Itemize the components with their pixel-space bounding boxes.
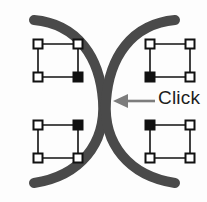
handle-top-left-hollow[interactable] <box>146 40 155 49</box>
handle-top-right-filled[interactable] <box>74 121 83 130</box>
click-annotation-label: Click <box>158 88 200 107</box>
handle-bottom-right-hollow[interactable] <box>186 73 195 82</box>
selection-group-top-right[interactable] <box>146 40 195 82</box>
handle-top-right-hollow[interactable] <box>186 40 195 49</box>
arrow-head-icon <box>113 94 128 108</box>
handle-top-left-filled[interactable] <box>146 121 155 130</box>
handle-bottom-left-hollow[interactable] <box>34 73 43 82</box>
callout-arrow <box>113 94 155 108</box>
handle-bottom-right-filled[interactable] <box>74 73 83 82</box>
selection-group-bottom-right[interactable] <box>146 121 195 163</box>
handle-bottom-right-hollow[interactable] <box>186 154 195 163</box>
selection-group-bottom-left[interactable] <box>34 121 83 163</box>
handle-top-right-hollow[interactable] <box>74 40 83 49</box>
handle-bottom-left-hollow[interactable] <box>146 154 155 163</box>
selection-group-top-left[interactable] <box>34 40 83 82</box>
handle-bottom-left-filled[interactable] <box>146 73 155 82</box>
handle-top-right-hollow[interactable] <box>186 121 195 130</box>
handle-bottom-left-hollow[interactable] <box>34 154 43 163</box>
handle-bottom-right-hollow[interactable] <box>74 154 83 163</box>
handle-top-left-hollow[interactable] <box>34 40 43 49</box>
illustration-canvas: Click <box>0 0 207 202</box>
handle-top-left-hollow[interactable] <box>34 121 43 130</box>
